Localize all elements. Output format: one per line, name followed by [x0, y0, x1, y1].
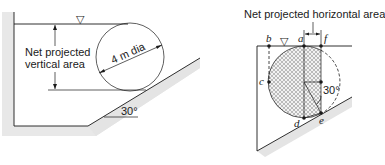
- point-b: [267, 44, 271, 48]
- left-figure: ▽ 4 m dia Net projected vertical area 30…: [2, 12, 200, 136]
- left-ground-shading: [2, 12, 200, 136]
- point-d: [302, 116, 306, 120]
- vertical-arrow-head-top: [53, 25, 57, 30]
- right-angle-label: 30°: [323, 84, 340, 96]
- point-f: [319, 44, 323, 48]
- label-b: b: [266, 32, 272, 44]
- point-a: [302, 44, 306, 48]
- label-c: c: [259, 75, 264, 87]
- point-center: [319, 80, 323, 84]
- diameter-label: 4 m dia: [109, 40, 148, 66]
- left-slope: [88, 58, 200, 126]
- label-d: d: [294, 117, 300, 129]
- left-free-surface-symbol: ▽: [76, 13, 85, 25]
- diameter-arrow-head-1: [99, 69, 105, 73]
- net-projected-horizontal-label: Net projected horizontal area: [244, 8, 385, 20]
- net-projected-vertical-label-2: vertical area: [25, 58, 86, 70]
- label-a: a: [298, 32, 304, 44]
- net-projected-vertical-label-1: Net projected: [25, 46, 90, 58]
- label-f: f: [324, 32, 329, 44]
- diameter-arrow-head-2: [156, 45, 162, 49]
- h-arrow-right: [316, 33, 320, 36]
- cylinder-arc-dashed: [321, 50, 340, 113]
- point-c: [267, 80, 271, 84]
- left-ground-shading-slope: [88, 58, 200, 136]
- right-free-surface-symbol: ▽: [280, 35, 289, 47]
- vertical-arrow-head-bottom: [53, 84, 57, 89]
- diagram-canvas: ▽ 4 m dia Net projected vertical area 30…: [0, 0, 385, 165]
- left-angle-label: 30°: [121, 105, 138, 117]
- label-e: e: [319, 114, 324, 126]
- right-figure: Net projected horizontal area ▽: [244, 8, 385, 157]
- h-arrow-left: [305, 33, 309, 36]
